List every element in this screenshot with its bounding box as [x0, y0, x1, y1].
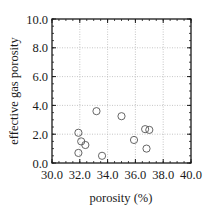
y-axis-label: effective gas porosity	[7, 37, 21, 145]
x-axis-label: porosity (%)	[90, 191, 153, 205]
data-point-circle	[93, 108, 100, 115]
y-tick-labels: 0.02.04.06.08.010.0	[26, 13, 48, 171]
y-tick-label: 0.0	[32, 157, 48, 171]
grid-lines	[52, 19, 191, 163]
x-tick-label: 32.0	[69, 168, 91, 182]
data-point-circle	[98, 152, 105, 159]
y-tick-label: 10.0	[26, 13, 48, 27]
x-tick-labels: 30.032.034.036.038.040.0	[41, 168, 202, 182]
data-point-circle	[118, 113, 125, 120]
y-tick-label: 2.0	[32, 128, 48, 142]
y-tick-label: 8.0	[32, 41, 48, 55]
plot-frame	[52, 19, 191, 163]
data-point-circle	[75, 149, 82, 156]
data-point-circle	[146, 126, 153, 133]
axis-ticks	[52, 19, 191, 163]
data-point-circle	[130, 136, 137, 143]
y-tick-label: 4.0	[32, 99, 48, 113]
data-point-circle	[75, 129, 82, 136]
scatter-chart: 30.032.034.036.038.040.0 0.02.04.06.08.0…	[0, 0, 211, 215]
x-tick-label: 36.0	[124, 168, 146, 182]
data-point-circle	[143, 145, 150, 152]
x-tick-label: 38.0	[152, 168, 174, 182]
data-points	[75, 108, 153, 160]
x-tick-label: 40.0	[180, 168, 202, 182]
x-tick-label: 34.0	[97, 168, 119, 182]
y-tick-label: 6.0	[32, 70, 48, 84]
